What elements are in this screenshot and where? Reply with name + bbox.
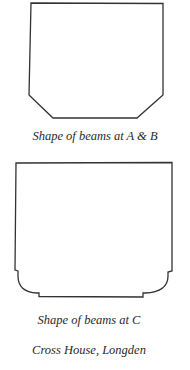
caption-beams-c: Shape of beams at C — [0, 313, 184, 328]
caption-beams-a-b: Shape of beams at A & B — [0, 129, 190, 144]
beam-ab-profile — [29, 3, 163, 118]
beam-c-profile — [15, 163, 172, 298]
caption-location: Cross House, Longden — [0, 343, 184, 358]
